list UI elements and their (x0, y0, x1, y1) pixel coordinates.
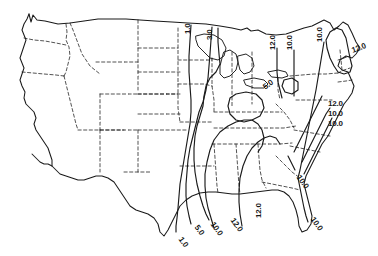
state-border-plains-east (178, 28, 180, 122)
contour-label: 1.0 (184, 23, 192, 34)
state-border-id-west (64, 24, 70, 76)
state-border-wa-or (24, 38, 66, 45)
contour-label: 3.0 (206, 29, 214, 40)
contour-label: 10.0 (316, 27, 324, 42)
state-border-ct-ri (338, 80, 352, 82)
contour-12-0-midatlantic (294, 96, 322, 152)
state-border-or-ca (22, 72, 64, 76)
contour-lines (176, 25, 352, 232)
contour-label: 12.0 (328, 100, 343, 108)
contour-10-0-east (298, 42, 324, 178)
state-border-pa-ny (290, 73, 338, 76)
state-border-sc-ga (276, 156, 300, 178)
lake-huron (238, 54, 254, 74)
contour-10-0-midatlantic (302, 108, 330, 162)
state-border-ga-fl (262, 182, 300, 190)
contour-label: 10.0 (286, 35, 294, 50)
contour-5-0 (194, 28, 220, 220)
state-border-il-west (212, 58, 214, 112)
state-border-id-mt (70, 23, 100, 74)
contour-label: 10.0 (328, 120, 343, 128)
us-national-outline (29, 14, 360, 236)
state-border-wv-va (276, 104, 294, 128)
state-border-nv-ut (64, 76, 78, 130)
contour-10-0-loop (228, 92, 264, 122)
state-border-ar-ms (214, 144, 218, 193)
lake-michigan (220, 50, 238, 78)
contour-map-figure: 1.0 3.0 12.0 10.0 10.0 12.0 5.0 12.0 10.… (0, 0, 378, 256)
contour-small-erie (282, 78, 298, 94)
contour-10-0-leader-tn (288, 156, 295, 170)
contour-label: 10.0 (328, 110, 343, 118)
contour-label: 12.0 (255, 203, 263, 218)
contour-label: 12.0 (269, 35, 277, 50)
map-geometry (20, 14, 360, 236)
west-coast-outline (20, 14, 52, 166)
